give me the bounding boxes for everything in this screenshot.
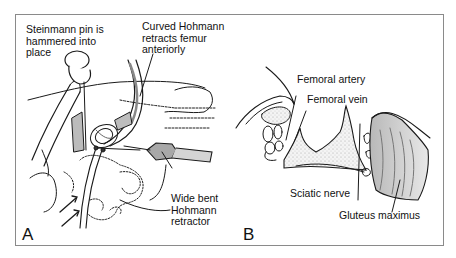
label-sciatic-nerve: Sciatic nerve: [290, 188, 350, 200]
label-wide-bent-hohmann: Wide bent Hohmann retractor: [171, 193, 218, 228]
panel-letter-a: A: [22, 226, 33, 243]
label-curved-hohmann: Curved Hohmann retracts femur anteriorly: [142, 21, 224, 56]
label-femoral-artery: Femoral artery: [297, 74, 365, 86]
label-femoral-vein: Femoral vein: [307, 94, 368, 106]
label-steinmann-pin: Steinmann pin is hammered into place: [26, 24, 104, 59]
panel-letter-b: B: [243, 226, 254, 243]
label-gluteus-maximus: Gluteus maximus: [339, 210, 420, 222]
